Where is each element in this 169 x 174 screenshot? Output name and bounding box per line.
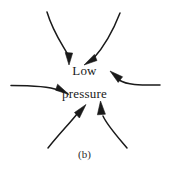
arrow-bottom-right bbox=[97, 101, 127, 148]
arrow-top-left bbox=[47, 12, 73, 65]
center-label-pressure: pressure bbox=[0, 86, 169, 101]
figure-caption: (b) bbox=[0, 148, 169, 161]
arrow-top-right bbox=[84, 13, 120, 65]
arrow-bottom-left bbox=[48, 105, 86, 149]
center-label-low: Low bbox=[0, 63, 169, 78]
low-pressure-figure: Low pressure (b) bbox=[0, 0, 169, 174]
